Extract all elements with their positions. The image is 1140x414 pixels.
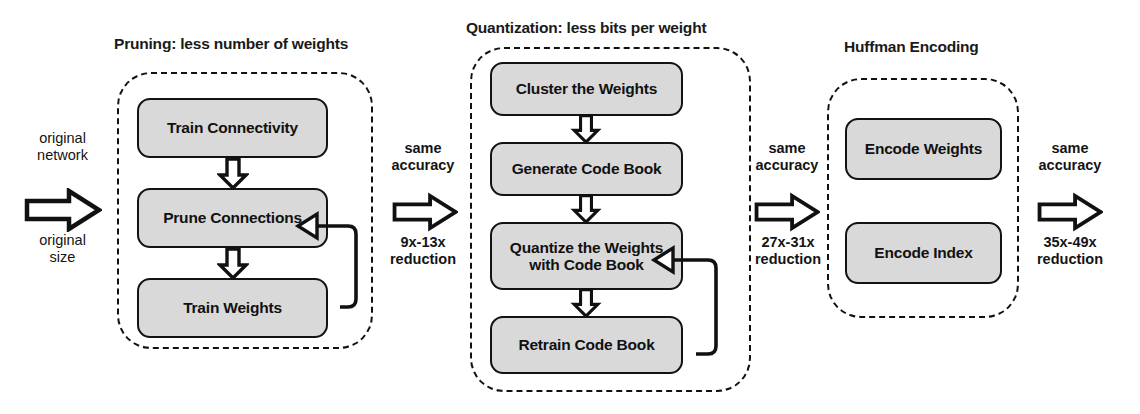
step-label-prune-connections: Prune Connections [163,209,302,226]
feedback-loop-quantization [640,240,725,365]
transition-after-quantization-top-line2: accuracy [742,157,832,174]
step-label-encode-weights: Encode Weights [865,140,982,157]
step-label-generate-code-book: Generate Code Book [512,160,662,177]
flow-arrow-after-pruning [392,192,458,232]
transition-after-pruning-top-label: same accuracy [378,140,468,175]
transition-after-pruning-top-line1: same [378,140,468,157]
transition-after-pruning-bottom-label: 9x-13x reduction [374,234,472,269]
transition-input-top-line1: original [10,130,115,147]
transition-after-quantization-top-line1: same [742,140,832,157]
transition-after-huffman-bottom-label: 35x-49x reduction [1018,234,1122,269]
transition-input-top-label: original network [10,130,115,165]
flow-arrow-after-huffman [1037,192,1103,232]
stage-title-quantization: Quantization: less bits per weight [466,19,706,37]
down-arrow-quantization-3 [570,288,602,318]
step-label-cluster-the-weights: Cluster the Weights [516,80,657,97]
transition-after-quantization-bottom-line2: reduction [736,251,840,268]
transition-after-pruning-bottom-line1: 9x-13x [374,234,472,251]
step-box-encode-index[interactable]: Encode Index [845,222,1002,284]
transition-after-huffman-bottom-line2: reduction [1018,251,1122,268]
step-box-train-connectivity[interactable]: Train Connectivity [137,98,328,158]
transition-after-pruning-top-line2: accuracy [378,157,468,174]
step-box-generate-code-book[interactable]: Generate Code Book [490,142,683,196]
transition-after-quantization-top-label: same accuracy [742,140,832,175]
transition-input-bottom-line1: original [10,232,115,249]
down-arrow-pruning-2 [217,247,249,280]
flow-arrow-after-quantization [754,192,820,232]
transition-after-quantization-bottom-label: 27x-31x reduction [736,234,840,269]
step-label-retrain-code-book: Retrain Code Book [518,336,654,353]
down-arrow-pruning-1 [217,157,249,190]
feedback-loop-pruning [284,206,364,316]
step-label-train-weights: Train Weights [183,299,282,316]
stage-title-huffman: Huffman Encoding [844,38,979,56]
step-label-encode-index: Encode Index [874,244,972,261]
step-box-encode-weights[interactable]: Encode Weights [845,118,1002,180]
transition-input-bottom-label: original size [10,232,115,267]
down-arrow-quantization-2 [570,194,602,224]
transition-after-huffman-top-line2: accuracy [1024,157,1116,174]
transition-input-bottom-line2: size [10,249,115,266]
deep-compression-diagram: original network original size Pruning: … [0,0,1140,414]
step-box-cluster-the-weights[interactable]: Cluster the Weights [490,62,683,116]
transition-after-huffman-top-line1: same [1024,140,1116,157]
transition-after-huffman-bottom-line1: 35x-49x [1018,234,1122,251]
stage-title-pruning: Pruning: less number of weights [114,35,348,53]
down-arrow-quantization-1 [570,114,602,144]
transition-input-top-line2: network [10,147,115,164]
flow-arrow-input [24,188,102,232]
transition-after-pruning-bottom-line2: reduction [374,251,472,268]
transition-after-quantization-bottom-line1: 27x-31x [736,234,840,251]
step-label-train-connectivity: Train Connectivity [167,119,298,136]
transition-after-huffman-top-label: same accuracy [1024,140,1116,175]
